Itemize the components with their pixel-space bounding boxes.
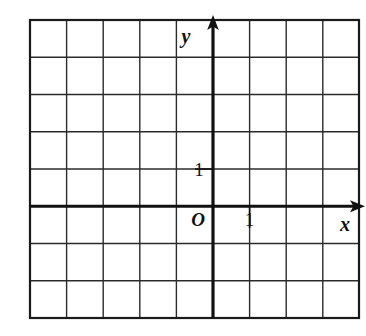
coordinate-grid-svg: y x O 1 1 [0, 0, 366, 336]
figure-background [0, 0, 366, 336]
y-axis-label: y [180, 25, 191, 48]
origin-label: O [191, 209, 205, 230]
coordinate-grid-figure: y x O 1 1 [0, 0, 366, 336]
y-unit-label: 1 [194, 159, 204, 180]
x-unit-label: 1 [245, 209, 255, 230]
x-axis-label: x [339, 213, 350, 235]
